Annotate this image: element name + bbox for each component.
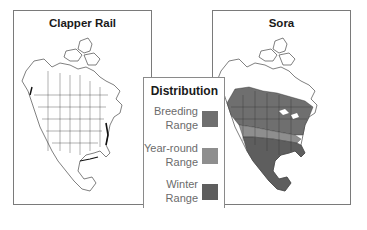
sora-map: [213, 11, 352, 206]
panel-title: Clapper Rail: [14, 17, 151, 29]
winter-swatch: [202, 184, 218, 200]
sora-panel: Sora: [212, 10, 351, 205]
distribution-legend: Distribution Breeding Range Year-round R…: [143, 77, 225, 208]
legend-item-breeding: Breeding Range: [144, 104, 224, 138]
legend-label: Breeding Range: [154, 104, 198, 132]
legend-item-winter: Winter Range: [144, 177, 224, 211]
year-round-swatch: [202, 148, 218, 164]
legend-title: Distribution: [144, 84, 224, 98]
legend-label: Year-round Range: [144, 141, 198, 169]
panel-title: Sora: [213, 17, 350, 29]
legend-item-year-round: Year-round Range: [144, 141, 224, 175]
clapper-rail-map: [14, 11, 153, 206]
clapper-rail-panel: Clapper Rail: [13, 10, 152, 205]
legend-label: Winter Range: [166, 177, 198, 205]
breeding-swatch: [202, 111, 218, 127]
